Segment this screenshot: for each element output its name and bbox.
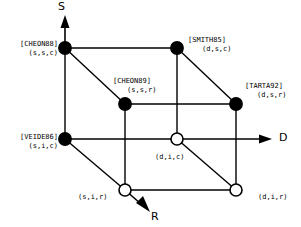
- label-cheon88-coord: (s,s,c): [0, 49, 58, 58]
- cube-nodes: [59, 42, 242, 196]
- label-sir: (s,i,r): [78, 193, 108, 202]
- cube-edges: [65, 48, 236, 190]
- label-cheon89-ref: [CHEON89]: [113, 77, 157, 86]
- edge-depth-top-left: [65, 48, 125, 104]
- axis-r-arrowhead: [136, 196, 150, 212]
- axis-lines: [61, 15, 273, 212]
- edge-depth-bottom-left: [65, 139, 125, 190]
- node-veide86: [59, 133, 71, 145]
- cube-diagram: S D R [CHEON88] (s,s,c) [SMITH85] (d,s,c…: [0, 0, 301, 227]
- cube-graphic: [0, 0, 301, 227]
- node-smith85: [171, 42, 183, 54]
- label-dic: (d,i,c): [155, 153, 185, 162]
- node-tarta92: [230, 98, 242, 110]
- axis-s-arrowhead: [61, 15, 70, 28]
- label-cheon89: [CHEON89] (s,s,r): [113, 77, 157, 95]
- label-dir-coord: (d,i,r): [258, 193, 288, 202]
- node-dic: [171, 133, 183, 145]
- edge-depth-bottom-right: [177, 139, 236, 190]
- axis-d-arrowhead: [259, 135, 272, 144]
- label-cheon89-coord: (s,s,r): [113, 86, 157, 95]
- node-sir: [119, 184, 131, 196]
- node-cheon88: [59, 42, 71, 54]
- axis-label-r: R: [151, 210, 159, 223]
- node-dir: [230, 184, 242, 196]
- label-smith85-coord: (d,s,c): [188, 45, 232, 54]
- label-dir: (d,i,r): [258, 193, 288, 202]
- label-smith85: [SMITH85] (d,s,c): [188, 36, 232, 54]
- label-tarta92: [TARTA92] (d,s,r): [245, 82, 287, 100]
- axis-label-d: D: [279, 131, 287, 144]
- label-veide86-ref: [VEIDE86]: [0, 133, 58, 142]
- node-cheon89: [119, 98, 131, 110]
- label-dic-coord: (d,i,c): [155, 153, 185, 162]
- label-cheon88-ref: [CHEON88]: [0, 40, 58, 49]
- label-tarta92-ref: [TARTA92]: [245, 82, 287, 91]
- axis-label-s: S: [58, 0, 65, 13]
- label-veide86-coord: (s,i,c): [0, 142, 58, 151]
- label-sir-coord: (s,i,r): [78, 193, 108, 202]
- label-tarta92-coord: (d,s,r): [245, 91, 287, 100]
- label-cheon88: [CHEON88] (s,s,c): [0, 40, 58, 58]
- edge-depth-top-right: [177, 48, 236, 104]
- label-smith85-ref: [SMITH85]: [188, 36, 232, 45]
- label-veide86: [VEIDE86] (s,i,c): [0, 133, 58, 151]
